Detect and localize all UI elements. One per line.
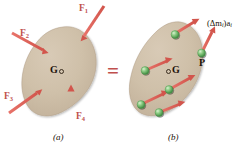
force-label-F3: F3 xyxy=(4,92,13,102)
effective-force-label: (Δmi)ai xyxy=(207,19,232,28)
physics-figure: F1 F2 F3 F4 G = G P (Δmi)ai (a) (b) xyxy=(0,0,248,150)
equals-sign: = xyxy=(107,61,119,82)
particle-sphere-4 xyxy=(137,101,145,109)
effective-force-arrow-at-P xyxy=(202,26,215,52)
caption-a: (a) xyxy=(53,133,64,142)
force-label-F2: F2 xyxy=(20,29,29,39)
particle-sphere-2 xyxy=(141,67,149,75)
particle-sphere-P xyxy=(198,49,206,57)
particle-sphere-3 xyxy=(165,86,173,94)
particle-sphere-1 xyxy=(171,31,179,39)
caption-b: (b) xyxy=(168,133,179,142)
centroid-label-a: G xyxy=(50,65,58,75)
particle-sphere-5 xyxy=(155,109,163,117)
point-label-P: P xyxy=(199,58,205,68)
centroid-label-b: G xyxy=(172,65,180,75)
force-label-F1: F1 xyxy=(79,4,88,14)
force-label-F4: F4 xyxy=(76,112,85,122)
panel-a-body-shape xyxy=(22,27,96,116)
